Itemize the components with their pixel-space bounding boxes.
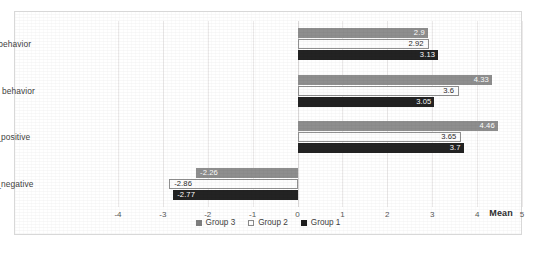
- bar: 2.9: [298, 28, 428, 38]
- legend-label: Group 2: [258, 218, 288, 227]
- legend-label: Group 3: [206, 218, 236, 227]
- bar: -2.26: [196, 168, 297, 178]
- legend-item-group-3[interactable]: Group 3: [196, 218, 236, 227]
- bar-value-label: 3.65: [441, 133, 456, 141]
- bar: 3.6: [298, 86, 460, 96]
- legend-item-group-1[interactable]: Group 1: [301, 218, 341, 227]
- bar: -2.77: [173, 190, 297, 200]
- category-label: Mitigating behavior: [0, 21, 118, 67]
- legend-swatch-icon: [301, 220, 307, 226]
- x-axis-title: Mean: [489, 208, 513, 218]
- category-group: Intentions_positive4.463.653.7: [118, 114, 522, 161]
- bar: -2.86: [169, 179, 297, 189]
- legend-item-group-2[interactable]: Group 2: [248, 218, 288, 227]
- bar-value-label: 3.6: [443, 87, 454, 95]
- bar: 4.33: [298, 75, 492, 85]
- category-group: Adaptative behavior4.333.63.05: [118, 68, 522, 115]
- legend-swatch-icon: [248, 220, 254, 226]
- category-label: Adaptative behavior: [0, 68, 118, 114]
- bar: 3.05: [298, 97, 435, 107]
- bar-value-label: -2.77: [177, 191, 195, 199]
- legend-label: Group 1: [311, 218, 341, 227]
- bar-value-label: 4.33: [474, 76, 489, 84]
- category-label: Intentions_positive: [0, 114, 118, 160]
- category-label: Intentions_negative: [0, 161, 118, 207]
- bar: 3.7: [298, 143, 464, 153]
- bar-value-label: 4.46: [480, 122, 495, 130]
- chart-legend: Group 3Group 2Group 1: [15, 218, 521, 227]
- bar: 3.65: [298, 132, 462, 142]
- chart-container: Mitigating behavior2.92.923.13Adaptative…: [14, 11, 522, 235]
- bar-value-label: 2.92: [408, 40, 423, 48]
- category-group: Mitigating behavior2.92.923.13: [118, 21, 522, 68]
- bar-value-label: 2.9: [414, 29, 425, 37]
- bar-value-label: 3.13: [420, 51, 435, 59]
- bar-value-label: -2.26: [200, 169, 218, 177]
- bar: 2.92: [298, 39, 429, 49]
- plot-area: Mitigating behavior2.92.923.13Adaptative…: [118, 21, 522, 207]
- bar-value-label: 3.05: [416, 98, 431, 106]
- category-group: Intentions_negative-2.26-2.86-2.77: [118, 161, 522, 208]
- bar-value-label: 3.7: [450, 144, 461, 152]
- legend-swatch-icon: [196, 220, 202, 226]
- bar: 4.46: [298, 121, 498, 131]
- gridline-5: [522, 21, 523, 207]
- bar: 3.13: [298, 50, 439, 60]
- bar-value-label: -2.86: [174, 180, 192, 188]
